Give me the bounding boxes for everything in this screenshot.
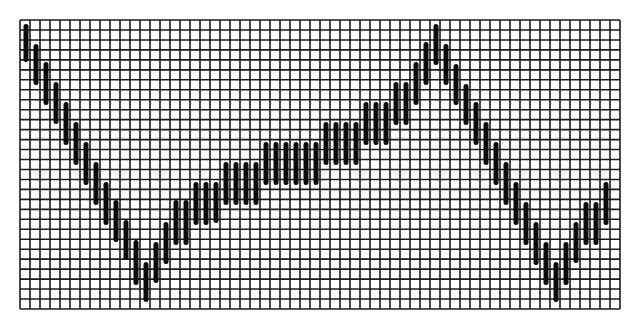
data-bar	[24, 24, 29, 62]
data-bar	[284, 142, 289, 185]
data-bar	[594, 202, 599, 245]
data-bar	[404, 82, 409, 125]
data-bar	[424, 42, 429, 85]
data-bar	[154, 242, 159, 283]
data-bar	[334, 122, 339, 165]
data-bar	[564, 242, 569, 285]
data-bar	[164, 222, 169, 264]
data-bar	[454, 64, 459, 105]
data-bar	[584, 202, 589, 245]
data-bar	[94, 162, 99, 205]
data-bar	[354, 122, 359, 165]
data-bar	[144, 262, 149, 302]
grid-lines	[20, 20, 620, 309]
data-bar	[264, 142, 269, 185]
data-bar	[554, 262, 559, 302]
data-bar	[134, 240, 139, 285]
data-bar	[534, 222, 539, 265]
data-bar	[444, 44, 449, 85]
data-bar	[174, 200, 179, 245]
data-bar	[204, 182, 209, 225]
data-bar	[254, 162, 259, 205]
data-bar	[494, 142, 499, 185]
data-bar	[44, 62, 49, 105]
data-bar	[394, 82, 399, 125]
data-bar	[574, 222, 579, 263]
data-bar	[524, 202, 529, 245]
data-bar	[54, 82, 59, 124]
data-bar	[34, 44, 39, 85]
data-bar	[124, 220, 129, 260]
data-bar	[84, 142, 89, 185]
data-bar	[544, 242, 549, 285]
data-bar	[374, 102, 379, 145]
data-bar	[464, 84, 469, 125]
data-bar	[504, 162, 509, 205]
data-bar	[514, 182, 519, 225]
data-bar	[304, 142, 309, 185]
data-bar	[314, 142, 319, 185]
data-bar	[224, 162, 229, 205]
data-bar	[244, 162, 249, 205]
data-bar	[234, 162, 239, 205]
data-bar	[414, 62, 419, 105]
data-bar	[104, 182, 109, 225]
data-bar	[214, 182, 219, 223]
data-bar	[64, 102, 69, 145]
data-bar	[474, 102, 479, 145]
data-bar	[604, 182, 609, 225]
data-bar	[294, 142, 299, 185]
data-bar	[324, 122, 329, 165]
data-bar	[384, 102, 389, 145]
data-bar	[434, 24, 439, 65]
data-bar	[364, 102, 369, 145]
data-bar	[344, 122, 349, 165]
data-bar	[274, 142, 279, 185]
data-bar	[114, 200, 119, 242]
data-bar	[74, 122, 79, 165]
data-bar	[184, 200, 189, 245]
range-bar-chart	[0, 0, 636, 325]
data-bar	[194, 182, 199, 225]
data-bar	[484, 122, 489, 165]
